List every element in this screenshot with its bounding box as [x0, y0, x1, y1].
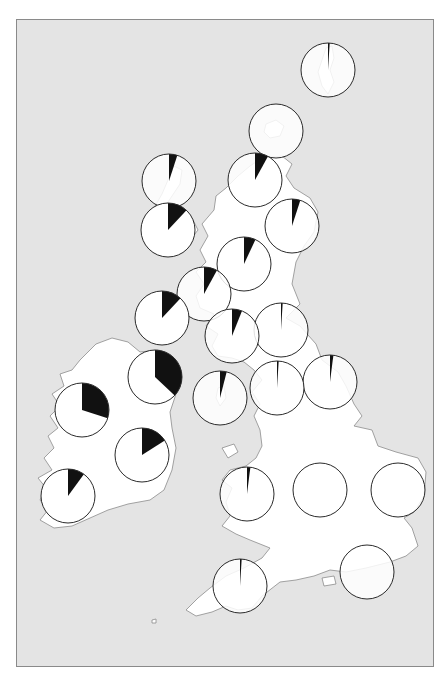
pie-chart	[141, 203, 195, 257]
pie-chart	[301, 43, 355, 97]
scilly-isles-landmass	[152, 619, 156, 623]
isle-of-wight-landmass	[322, 576, 336, 586]
pie-chart	[254, 303, 308, 357]
pie-chart	[303, 355, 357, 409]
pie-chart	[193, 371, 247, 425]
british-isles-map	[0, 0, 447, 679]
pie-chart	[41, 469, 95, 523]
anglesey-landmass	[222, 444, 238, 458]
pie-chart	[142, 154, 196, 208]
pie-chart	[250, 361, 304, 415]
pie-chart	[228, 153, 282, 207]
pie-chart	[135, 291, 189, 345]
pie-chart	[220, 467, 274, 521]
pie-chart	[340, 545, 394, 599]
pie-chart	[205, 309, 259, 363]
pie-chart	[115, 428, 169, 482]
pie-chart	[249, 104, 303, 158]
pie-chart	[371, 463, 425, 517]
pie-chart	[293, 463, 347, 517]
pie-chart	[213, 559, 267, 613]
pie-chart	[128, 350, 182, 404]
pie-chart	[55, 383, 109, 437]
pie-chart	[265, 199, 319, 253]
